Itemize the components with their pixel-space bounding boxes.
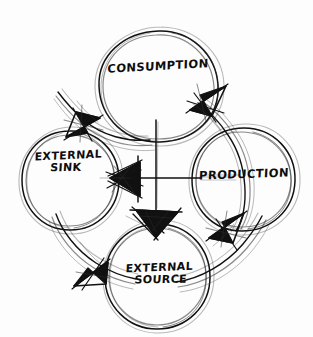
sketch-diagram-canvas: CONSUMPTION PRODUCTION EXTERNAL SOURCE E… — [0, 0, 313, 337]
center-axis-horizontal — [130, 175, 240, 180]
connector-external-sink-to-external-source — [49, 211, 138, 290]
node-circle-consumption — [95, 27, 224, 146]
center-axis-vertical — [156, 120, 158, 210]
connector-external-source-to-production — [174, 211, 270, 292]
sketch-diagram-svg — [0, 0, 313, 337]
center-arrow-to-external-source — [126, 207, 182, 240]
node-circle-external-sink — [19, 127, 123, 234]
